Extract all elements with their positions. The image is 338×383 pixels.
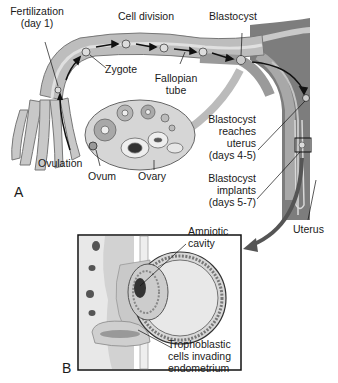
label-uterus: Uterus bbox=[293, 223, 324, 235]
label-blastocyst-reaches-uterus: Blastocyst reaches uterus (days 4-5) bbox=[190, 113, 256, 161]
ovum bbox=[89, 142, 97, 150]
label-fertilization: Fertilization (day 1) bbox=[3, 5, 71, 29]
label-blastocyst-implants: Blastocyst implants (days 5-7) bbox=[190, 172, 256, 208]
diagram-canvas bbox=[0, 0, 338, 383]
panel-label-b: B bbox=[62, 362, 71, 374]
panel-label-a: A bbox=[14, 186, 23, 198]
label-zygote: Zygote bbox=[105, 63, 137, 75]
label-ovulation: Ovulation bbox=[38, 157, 82, 169]
label-blastocyst: Blastocyst bbox=[209, 10, 257, 22]
label-ovum: Ovum bbox=[88, 170, 116, 182]
label-amniotic-cavity: Amniotic cavity bbox=[188, 225, 228, 249]
amniotic-cavity bbox=[134, 278, 146, 298]
label-trophoblastic-cells: Trophoblastic cells invading endometrium bbox=[168, 338, 231, 374]
label-cell-division: Cell division bbox=[118, 10, 174, 22]
label-fallopian-tube: Fallopian tube bbox=[151, 72, 201, 96]
label-ovary: Ovary bbox=[138, 170, 166, 182]
